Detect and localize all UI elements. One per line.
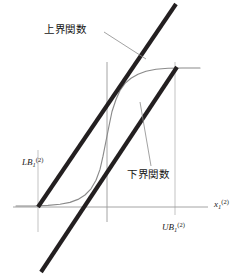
upper-bound-superscript: (2)	[177, 221, 185, 228]
lower-bound-superscript: (2)	[36, 156, 44, 163]
upper-bound-axis-label: UB1(2)	[162, 222, 185, 233]
upper-bound-var: UB	[162, 222, 174, 232]
diagram-canvas	[0, 0, 236, 274]
lower-bound-axis-label: LB1(2)	[22, 157, 43, 168]
bounding-function-diagram: 上界関数 下界関数 LB1(2) UB1(2) x1(2)	[0, 0, 236, 274]
lower-function-label: 下界関数	[127, 169, 169, 180]
sigmoid-curve	[16, 68, 200, 206]
x-axis-superscript: (2)	[221, 198, 229, 205]
upper-function-leader-line	[104, 32, 146, 59]
x-axis-label: x1(2)	[214, 199, 229, 210]
upper-function-label: 上界関数	[44, 24, 86, 35]
lower-bound-var: LB	[22, 157, 33, 167]
